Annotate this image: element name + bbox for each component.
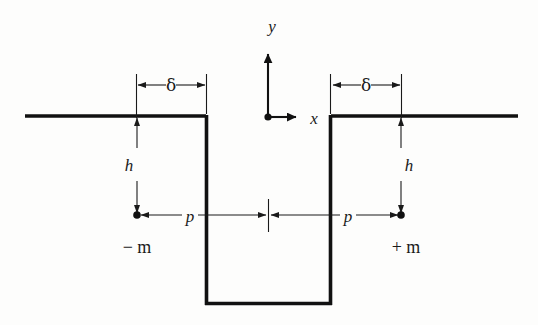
p-left-label: p	[185, 207, 195, 226]
dimension-delta-left: δ	[138, 75, 205, 95]
delta-right-label: δ	[361, 75, 371, 95]
minus-m-dot	[133, 211, 141, 219]
x-axis-label: x	[309, 109, 318, 128]
dimension-h-left: h	[125, 118, 137, 213]
dimension-h-right: h	[401, 118, 413, 213]
plus-m-dot	[397, 211, 405, 219]
origin-dot	[264, 113, 271, 120]
dimension-p-left: p	[141, 207, 266, 226]
dimension-p-right: p	[271, 207, 398, 226]
well-diagram: δ δ h h p p	[0, 0, 538, 325]
h-right-label: h	[405, 156, 414, 175]
delta-left-label: δ	[166, 75, 176, 95]
p-right-label: p	[343, 207, 353, 226]
dimension-delta-right: δ	[333, 75, 400, 95]
minus-m-label: − m	[123, 237, 152, 257]
coordinate-axes	[264, 54, 296, 121]
figure-root: δ δ h h p p	[0, 0, 538, 325]
plus-m-label: + m	[392, 237, 421, 257]
y-axis-label: y	[266, 17, 276, 36]
h-left-label: h	[125, 156, 134, 175]
well-profile	[25, 115, 518, 305]
text-labels: y x − m + m	[123, 17, 421, 257]
